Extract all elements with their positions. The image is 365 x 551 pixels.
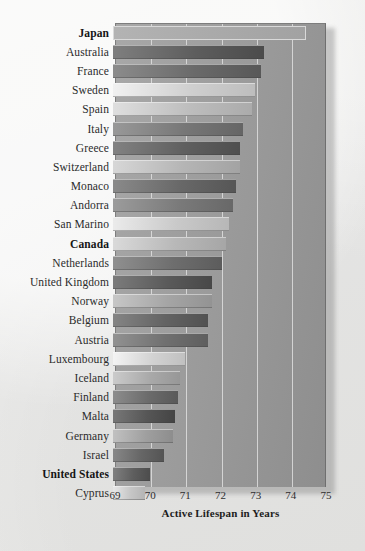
bar-label-sweden: Sweden [0, 84, 113, 96]
x-tick-69: 69 [110, 489, 121, 501]
x-tick-71: 71 [180, 489, 191, 501]
bar-label-andorra: Andorra [0, 199, 113, 211]
bar-malta [113, 409, 175, 423]
bar-track [113, 292, 324, 311]
bar-label-luxembourg: Luxembourg [0, 353, 113, 365]
chart-figure: JapanAustraliaFranceSwedenSpainItalyGree… [0, 0, 365, 551]
bar-italy [113, 122, 243, 136]
bar-label-malta: Malta [0, 410, 113, 422]
x-tick-72: 72 [215, 489, 226, 501]
bar-belgium [113, 313, 208, 327]
bar-row: United Kingdom [0, 272, 365, 291]
bar-label-italy: Italy [0, 123, 113, 135]
bar-san-marino [113, 217, 229, 231]
x-tick-75: 75 [321, 489, 332, 501]
bar-label-iceland: Iceland [0, 372, 113, 384]
bar-label-germany: Germany [0, 430, 113, 442]
bar-france [113, 64, 261, 78]
bar-track [113, 23, 324, 42]
bar-track [113, 368, 324, 387]
bar-switzerland [113, 160, 240, 174]
bar-label-switzerland: Switzerland [0, 161, 113, 173]
bar-label-israel: Israel [0, 449, 113, 461]
bar-row: Belgium [0, 311, 365, 330]
bar-track [113, 177, 324, 196]
bar-track [113, 464, 324, 483]
bar-germany [113, 429, 173, 443]
bar-austria [113, 333, 208, 347]
bar-row: Greece [0, 138, 365, 157]
bar-row: Spain [0, 100, 365, 119]
bar-label-austria: Austria [0, 334, 113, 346]
bar-track [113, 445, 324, 464]
bar-greece [113, 141, 240, 155]
bar-track [113, 407, 324, 426]
bar-united-kingdom [113, 275, 212, 289]
bar-track [113, 119, 324, 138]
bar-sweden [113, 83, 255, 97]
bar-spain [113, 102, 252, 116]
bar-track [113, 81, 324, 100]
bar-australia [113, 45, 264, 59]
bar-label-spain: Spain [0, 103, 113, 115]
bar-row: Malta [0, 407, 365, 426]
bar-luxembourg [113, 352, 185, 366]
bar-track [113, 272, 324, 291]
bar-row: France [0, 61, 365, 80]
bar-row: Italy [0, 119, 365, 138]
bar-track [113, 61, 324, 80]
bar-row: Sweden [0, 81, 365, 100]
bar-track [113, 388, 324, 407]
bar-label-japan: Japan [0, 27, 113, 39]
bar-row: Monaco [0, 177, 365, 196]
bar-row: Luxembourg [0, 349, 365, 368]
bar-finland [113, 390, 178, 404]
bar-track [113, 196, 324, 215]
bar-row: Canada [0, 234, 365, 253]
bar-label-finland: Finland [0, 391, 113, 403]
bar-track [113, 234, 324, 253]
bar-label-monaco: Monaco [0, 180, 113, 192]
bar-row: Norway [0, 292, 365, 311]
bar-label-norway: Norway [0, 295, 113, 307]
bar-row: San Marino [0, 215, 365, 234]
bar-row: Finland [0, 388, 365, 407]
bar-rows: JapanAustraliaFranceSwedenSpainItalyGree… [0, 23, 365, 487]
bar-track [113, 100, 324, 119]
bar-label-netherlands: Netherlands [0, 257, 113, 269]
bar-row: Austria [0, 330, 365, 349]
bar-label-greece: Greece [0, 142, 113, 154]
x-axis-title: Active Lifespan in Years [115, 507, 326, 519]
bar-norway [113, 294, 212, 308]
bar-label-united-kingdom: United Kingdom [0, 276, 113, 288]
bar-japan [113, 26, 306, 40]
bar-track [113, 330, 324, 349]
bar-canada [113, 237, 226, 251]
bar-track [113, 157, 324, 176]
bar-row: Andorra [0, 196, 365, 215]
bar-label-united-states: United States [0, 468, 113, 480]
bar-iceland [113, 371, 180, 385]
bar-label-australia: Australia [0, 46, 113, 58]
bar-row: Germany [0, 426, 365, 445]
bar-track [113, 349, 324, 368]
bar-row: Netherlands [0, 253, 365, 272]
x-tick-73: 73 [250, 489, 261, 501]
bar-label-san-marino: San Marino [0, 218, 113, 230]
x-tick-70: 70 [145, 489, 156, 501]
bar-andorra [113, 198, 233, 212]
bar-row: Iceland [0, 368, 365, 387]
bar-netherlands [113, 256, 222, 270]
bar-row: Australia [0, 42, 365, 61]
bar-label-canada: Canada [0, 238, 113, 250]
bar-row: Japan [0, 23, 365, 42]
bar-track [113, 42, 324, 61]
bar-united-states [113, 467, 150, 481]
bar-track [113, 138, 324, 157]
bar-row: United States [0, 464, 365, 483]
bar-row: Israel [0, 445, 365, 464]
x-tick-74: 74 [285, 489, 296, 501]
bar-monaco [113, 179, 236, 193]
x-axis-ticks: 69707172737475 [0, 489, 365, 505]
bar-israel [113, 448, 164, 462]
